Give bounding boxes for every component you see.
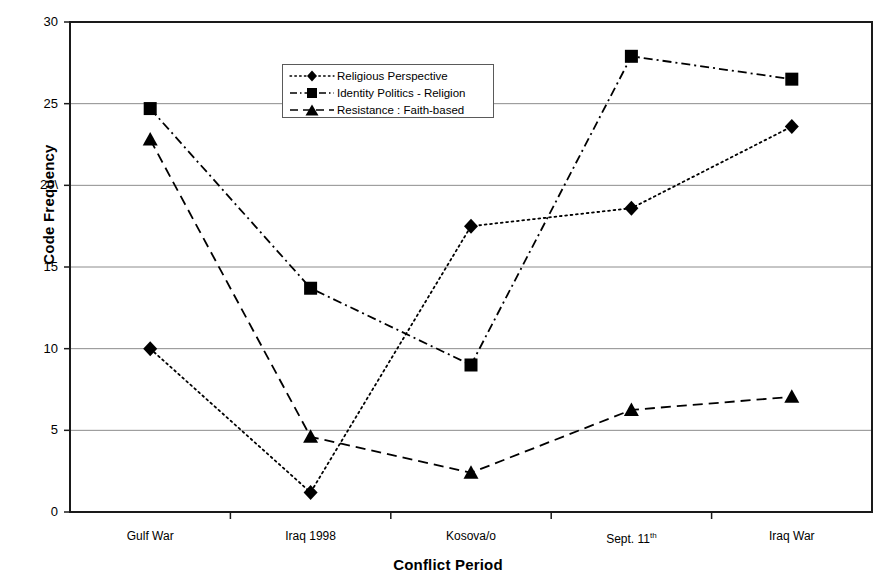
legend-item-resistance-faith-based: Resistance : Faith-based	[289, 101, 464, 118]
data-point-marker-square	[465, 359, 478, 372]
legend-label-1: Identity Politics - Religion	[337, 87, 465, 99]
legend-swatch-diamond-dotted	[289, 68, 335, 84]
series-line-2	[150, 140, 792, 473]
legend-swatch-square-dashdot	[289, 85, 335, 101]
series-2	[143, 132, 800, 479]
data-point-marker-diamond	[464, 219, 478, 234]
data-point-marker-square	[785, 73, 798, 86]
legend-item-religious-perspective: Religious Perspective	[289, 67, 448, 84]
data-point-marker-diamond	[304, 485, 318, 500]
data-point-marker-triangle	[784, 389, 799, 403]
data-point-marker-square	[144, 102, 157, 115]
data-point-marker-square	[304, 282, 317, 295]
data-point-marker-square	[625, 50, 638, 63]
series-line-0	[150, 127, 792, 493]
data-point-marker-triangle	[303, 429, 318, 443]
line-chart: Code Frequency Conflict Period 05101520\…	[0, 0, 896, 584]
data-point-marker-diamond	[624, 201, 638, 216]
legend-label-0: Religious Perspective	[337, 70, 448, 82]
data-point-marker-triangle	[143, 132, 158, 146]
chart-legend: Religious Perspective Identity Politics …	[282, 64, 494, 118]
legend-label-2: Resistance : Faith-based	[337, 104, 464, 116]
legend-item-identity-politics-religion: Identity Politics - Religion	[289, 84, 465, 101]
data-point-marker-diamond	[785, 119, 799, 134]
legend-swatch-triangle-dashed	[289, 102, 335, 118]
